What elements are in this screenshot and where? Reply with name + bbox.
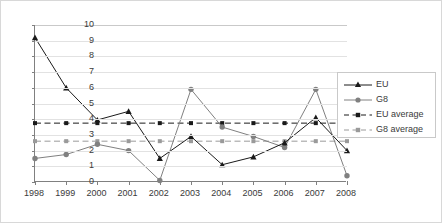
y-tick-mark (32, 41, 35, 42)
y-tick-label: 4 (72, 114, 94, 123)
y-tick-label: 1 (72, 161, 94, 170)
y-tick-label: 3 (72, 130, 94, 139)
data-point (189, 139, 193, 143)
x-tick-mark (191, 181, 192, 185)
y-tick-mark (32, 135, 35, 136)
data-point (158, 121, 162, 125)
x-tick-mark (347, 181, 348, 185)
data-point (64, 139, 68, 143)
legend-swatch-eu (343, 79, 373, 91)
data-point (95, 142, 100, 147)
y-tick-mark (32, 151, 35, 152)
y-tick-mark (32, 72, 35, 73)
data-point (251, 139, 255, 143)
data-point (64, 152, 69, 157)
legend-item-eu-average: EU average (338, 107, 435, 122)
x-tick-label: 2004 (204, 189, 238, 198)
legend-item-eu: EU (338, 77, 435, 92)
y-tick-mark (32, 119, 35, 120)
data-point (64, 121, 68, 125)
legend-item-g8: G8 (338, 92, 435, 107)
x-tick-mark (222, 181, 223, 185)
x-tick-label: 2002 (142, 189, 176, 198)
x-tick-mark (97, 181, 98, 185)
legend-swatch-g8-average (343, 124, 373, 136)
data-point (33, 139, 37, 143)
x-tick-mark (285, 181, 286, 185)
y-tick-label: 10 (72, 20, 94, 29)
data-point (344, 173, 349, 178)
data-point (314, 139, 318, 143)
data-point (282, 145, 287, 150)
y-tick-label: 2 (72, 146, 94, 155)
data-point (158, 139, 162, 143)
x-tick-mark (316, 181, 317, 185)
y-tick-mark (32, 104, 35, 105)
y-tick-label: 6 (72, 83, 94, 92)
x-tick-mark (253, 181, 254, 185)
series-g8-average (33, 139, 349, 143)
legend-swatch-g8 (343, 94, 373, 106)
data-point (345, 139, 349, 143)
data-point (33, 121, 37, 125)
y-tick-label: 9 (72, 36, 94, 45)
data-point (32, 156, 37, 161)
data-point (127, 121, 131, 125)
chart-figure: 012345678910 199819992000200120022003200… (0, 0, 442, 223)
data-point (283, 121, 287, 125)
y-tick-label: 8 (72, 51, 94, 60)
x-tick-mark (160, 181, 161, 185)
data-point (32, 34, 38, 40)
data-point (157, 155, 163, 161)
x-tick-label: 1999 (48, 189, 82, 198)
x-tick-mark (35, 181, 36, 185)
y-tick-mark (32, 25, 35, 26)
legend-swatch-eu-average (343, 109, 373, 121)
legend-label-eu-average: EU average (376, 110, 424, 119)
y-tick-label: 0 (72, 177, 94, 186)
chart-legend: EU G8 EU average G8 average (337, 72, 436, 138)
x-tick-mark (66, 181, 67, 185)
y-tick-label: 5 (72, 99, 94, 108)
y-tick-mark (32, 166, 35, 167)
data-point (251, 121, 255, 125)
x-tick-label: 2005 (235, 189, 269, 198)
data-point (250, 154, 256, 160)
x-tick-label: 2007 (298, 189, 332, 198)
x-tick-mark (129, 181, 130, 185)
data-point (220, 124, 225, 129)
legend-label-g8: G8 (376, 95, 388, 104)
x-tick-label: 2006 (267, 189, 301, 198)
y-tick-mark (32, 56, 35, 57)
legend-label-eu: EU (376, 80, 389, 89)
data-point (127, 139, 131, 143)
data-point (126, 108, 132, 114)
y-tick-label: 7 (72, 67, 94, 76)
x-tick-label: 1998 (17, 189, 51, 198)
x-tick-label: 2003 (173, 189, 207, 198)
legend-item-g8-average: G8 average (338, 122, 435, 137)
x-tick-label: 2008 (329, 189, 363, 198)
x-tick-label: 2001 (111, 189, 145, 198)
data-point (189, 121, 193, 125)
legend-label-g8-average: G8 average (376, 125, 423, 134)
data-point (314, 121, 318, 125)
data-point (220, 139, 224, 143)
x-tick-label: 2000 (79, 189, 113, 198)
y-tick-mark (32, 88, 35, 89)
